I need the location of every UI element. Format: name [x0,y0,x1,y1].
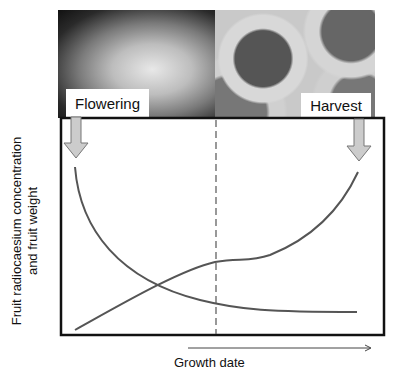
plot-frame [61,118,384,335]
y-axis-label-line1: Fruit radiocaesium concentration [9,131,25,331]
flowering-arrow-icon [64,117,88,158]
x-axis-label: Growth date [174,355,245,370]
harvest-arrow-icon [347,119,371,161]
y-axis-label-line2: and fruit weight [25,131,41,331]
diagram-canvas [0,0,393,382]
y-axis-label: Fruit radiocaesium concentration and fru… [9,131,41,331]
weight-curve [75,172,358,330]
